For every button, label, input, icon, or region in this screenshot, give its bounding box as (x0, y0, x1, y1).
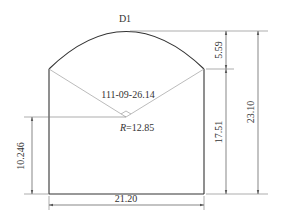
right-angle-mark (121, 111, 131, 114)
diagram-title: D1 (119, 13, 131, 24)
width-label: 21.20 (115, 193, 138, 204)
radius-label: R=12.85 (119, 122, 154, 133)
angle-label: 111-09-26.14 (101, 89, 154, 100)
radius-value: =12.85 (126, 122, 154, 133)
arch-curve (49, 32, 204, 70)
center-height-label: 10.246 (15, 142, 26, 170)
section-outline (49, 32, 204, 195)
arch-rise-label: 5.59 (213, 41, 224, 59)
radius-symbol: R (119, 122, 126, 133)
total-height-label: 23.10 (245, 101, 256, 124)
wall-height-label: 17.51 (213, 121, 224, 144)
dimension-lines (32, 31, 258, 205)
section-diagram: D1 111-09-26.14 R=12.85 21.20 10.246 5.5… (0, 0, 281, 223)
